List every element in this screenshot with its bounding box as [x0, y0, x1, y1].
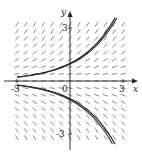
- slope-segment: [104, 135, 107, 139]
- slope-segment: [104, 115, 108, 119]
- slope-segment: [95, 29, 98, 33]
- slope-segment: [121, 66, 126, 68]
- slope-segment: [103, 108, 107, 111]
- slope-segment: [122, 128, 125, 132]
- slope-segment: [42, 29, 45, 33]
- slope-segment: [41, 94, 46, 96]
- slope-segment: [59, 101, 63, 104]
- slope-segment: [50, 51, 54, 54]
- slope-segment: [59, 121, 62, 125]
- y-tick-label-neg3: -3: [56, 129, 65, 139]
- slope-segment: [94, 88, 99, 89]
- slope-segment: [77, 44, 81, 48]
- slope-segment: [24, 22, 27, 26]
- slope-segment: [94, 58, 98, 61]
- slope-segment: [15, 51, 19, 54]
- slope-segment: [85, 101, 89, 104]
- slope-segment: [33, 22, 36, 26]
- slope-segment: [24, 101, 28, 104]
- slope-segment: [42, 121, 45, 125]
- slope-segment: [95, 108, 99, 111]
- slope-segment: [24, 121, 27, 125]
- slope-segment: [15, 121, 18, 125]
- slope-segment: [95, 51, 99, 54]
- slope-segment: [50, 101, 54, 104]
- slope-segment: [59, 73, 64, 74]
- slope-segment: [14, 94, 19, 96]
- slope-segment: [24, 51, 28, 54]
- slope-segment: [51, 22, 54, 26]
- slope-segment: [94, 66, 99, 68]
- y-axis-arrow-icon: [68, 11, 73, 17]
- slope-segment: [23, 66, 28, 68]
- slope-segment: [112, 66, 117, 68]
- slope-segment: [50, 44, 54, 48]
- slope-segment: [86, 115, 90, 119]
- slope-segment: [50, 66, 55, 68]
- slope-segment: [86, 135, 89, 139]
- slope-segment: [42, 37, 45, 41]
- x-axis-arrow-icon: [132, 79, 138, 84]
- slope-segment: [86, 22, 89, 26]
- slope-segment: [77, 29, 80, 33]
- slope-segment: [86, 37, 89, 41]
- slope-segment: [121, 51, 125, 54]
- slope-segment: [24, 44, 28, 48]
- slope-segment: [59, 58, 63, 61]
- slope-segment: [32, 94, 37, 96]
- slope-segment: [113, 128, 116, 132]
- slope-segment: [32, 101, 36, 104]
- slope-segment: [59, 108, 63, 111]
- slope-segment: [41, 58, 45, 61]
- slope-segment: [24, 58, 28, 61]
- slope-segment: [14, 73, 19, 74]
- slope-segment: [85, 73, 90, 74]
- slope-segment: [50, 88, 55, 89]
- slope-segment: [113, 121, 116, 125]
- slope-segment: [122, 22, 125, 26]
- slope-segment: [51, 128, 54, 132]
- slope-segment: [33, 44, 37, 48]
- slope-segment: [33, 37, 36, 41]
- slope-segment: [77, 108, 81, 111]
- slope-segment: [41, 101, 45, 104]
- slope-segment: [112, 115, 116, 119]
- slope-segment: [86, 44, 90, 48]
- slope-segment: [15, 128, 18, 132]
- slope-segment: [42, 44, 46, 48]
- slope-segment: [15, 58, 19, 61]
- slope-segment: [121, 101, 125, 104]
- slope-segment: [59, 44, 63, 48]
- slope-segment: [121, 58, 125, 61]
- slope-segment: [94, 101, 98, 104]
- slope-segment: [14, 66, 19, 68]
- slope-segment: [104, 121, 107, 125]
- slope-segment: [23, 94, 28, 96]
- slope-segment: [112, 58, 116, 61]
- slope-segment: [77, 121, 80, 125]
- slope-field-figure: y x -3 0 3 3 -3: [0, 0, 142, 157]
- slope-segment: [24, 29, 27, 33]
- slope-segment: [112, 73, 117, 74]
- slope-segment: [85, 66, 90, 68]
- slope-segment: [85, 94, 90, 96]
- slope-segment: [112, 101, 116, 104]
- slope-segment: [41, 51, 45, 54]
- slope-segment: [32, 58, 36, 61]
- slope-segment: [86, 128, 89, 132]
- slope-segment: [113, 37, 116, 41]
- slope-field-plot: y x -3 0 3 3 -3: [0, 0, 142, 157]
- slope-segment: [112, 51, 116, 54]
- slope-segment: [15, 29, 18, 33]
- slope-segment: [112, 44, 116, 48]
- slope-segment: [24, 115, 28, 119]
- slope-segment: [103, 58, 107, 61]
- slope-segment: [112, 94, 117, 96]
- slope-segment: [33, 135, 36, 139]
- slope-segment: [32, 66, 37, 68]
- slope-segment: [121, 115, 125, 119]
- slope-segment: [59, 51, 63, 54]
- slope-segment: [121, 44, 125, 48]
- slope-segment: [51, 29, 54, 33]
- x-axis-label: x: [133, 84, 138, 94]
